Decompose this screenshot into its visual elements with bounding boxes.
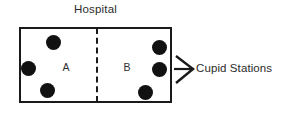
ward-partition-dashed-line xyxy=(96,28,98,102)
patient-dot xyxy=(152,62,167,77)
hospital-diagram-figure: Hospital A B Cupid Stations xyxy=(0,0,282,116)
patient-dot xyxy=(138,85,153,100)
ward-label-b: B xyxy=(120,61,134,73)
ward-label-a: A xyxy=(59,61,73,73)
patient-dot xyxy=(152,40,167,55)
cupid-stations-label: Cupid Stations xyxy=(196,62,272,74)
patient-dot xyxy=(40,83,55,98)
patient-dot xyxy=(46,35,61,50)
patient-dot xyxy=(21,61,36,76)
page-title: Hospital xyxy=(0,3,191,15)
